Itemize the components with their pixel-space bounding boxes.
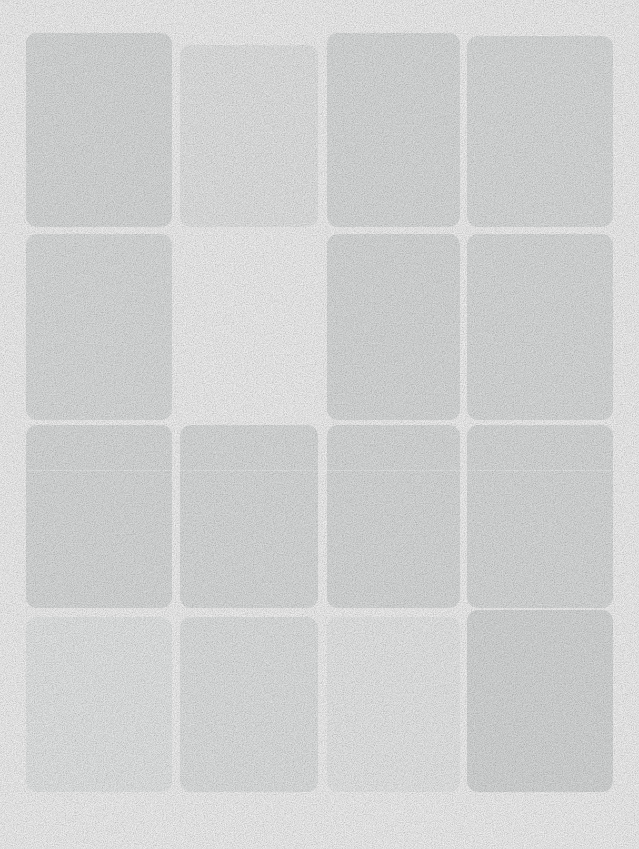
- card-placeholder[interactable]: [26, 234, 172, 420]
- card-placeholder[interactable]: [327, 33, 460, 227]
- card-placeholder[interactable]: [327, 425, 460, 608]
- card-placeholder[interactable]: [180, 617, 318, 792]
- card-placeholder[interactable]: [327, 234, 460, 420]
- card-header-divider: [180, 470, 318, 471]
- card-placeholder[interactable]: [26, 33, 172, 227]
- card-placeholder[interactable]: [467, 610, 613, 792]
- card-grid: [0, 0, 639, 849]
- card-placeholder[interactable]: [26, 617, 172, 792]
- card-placeholder[interactable]: [180, 425, 318, 608]
- card-placeholder[interactable]: [467, 36, 613, 227]
- card-header-divider: [327, 470, 460, 471]
- card-placeholder[interactable]: [26, 425, 172, 608]
- card-header-divider: [467, 470, 613, 471]
- card-placeholder[interactable]: [467, 234, 613, 420]
- card-header-divider: [26, 470, 172, 471]
- card-placeholder[interactable]: [180, 45, 318, 227]
- card-placeholder-empty: [180, 234, 318, 420]
- card-placeholder[interactable]: [327, 617, 460, 792]
- card-placeholder[interactable]: [467, 425, 613, 608]
